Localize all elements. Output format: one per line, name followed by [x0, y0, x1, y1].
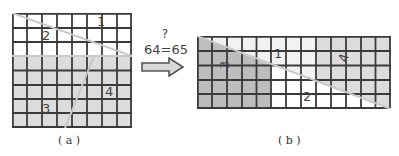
equation-text: 64=65	[140, 42, 192, 57]
label-2: 2	[42, 28, 50, 43]
figure-b: 1 2 3 4	[197, 36, 391, 109]
caption-a: ( a )	[58, 134, 80, 147]
question-mark: ?	[155, 27, 175, 41]
label-3: 3	[42, 101, 50, 116]
label-1: 1	[274, 46, 282, 61]
label-4: 4	[105, 84, 113, 99]
right-arrow-icon	[141, 57, 185, 81]
figure-b-grid: 1 2 3 4	[197, 36, 391, 109]
caption-b: ( b )	[278, 134, 301, 147]
label-3: 3	[217, 61, 232, 69]
figure-a: 1 2 3 4	[12, 13, 132, 128]
figure-a-grid: 1 2 3 4	[12, 13, 132, 128]
label-2: 2	[303, 89, 311, 104]
label-1: 1	[97, 14, 105, 29]
